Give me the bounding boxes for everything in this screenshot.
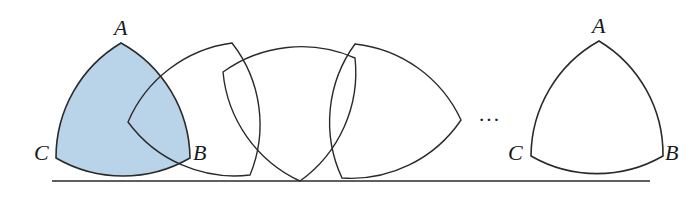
label-initial-B: B (193, 140, 206, 165)
ellipsis: ··· (478, 107, 500, 132)
reuleaux-rolling-3 (330, 44, 461, 178)
label-initial-C: C (34, 140, 49, 165)
label-final-C: C (508, 140, 523, 165)
reuleaux-initial-filled (56, 43, 190, 176)
label-initial-A: A (112, 15, 128, 40)
label-final-A: A (590, 13, 606, 38)
reuleaux-final (531, 41, 663, 174)
label-final-B: B (665, 140, 678, 165)
reuleaux-rolling-diagram: A B C ··· A B C (0, 0, 695, 204)
